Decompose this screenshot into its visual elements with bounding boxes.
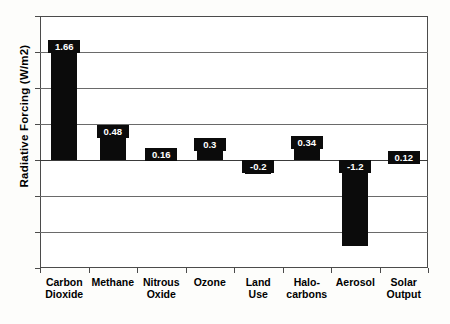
bar-value-label: 0.16 xyxy=(145,148,177,161)
bar-value-label: 0.48 xyxy=(97,125,129,138)
bar-slot: 0.12 xyxy=(380,16,429,268)
x-tick-mark xyxy=(283,268,284,273)
bar-slot: 0.16 xyxy=(137,16,186,268)
x-category-label: NitrousOxide xyxy=(137,276,186,300)
x-category-label: CarbonDioxide xyxy=(40,276,89,300)
x-category-line: Aerosol xyxy=(331,276,380,288)
x-category-line: Use xyxy=(234,288,283,300)
x-tick-mark xyxy=(234,268,235,273)
x-tick-mark xyxy=(40,268,41,273)
x-tick-mark xyxy=(380,268,381,273)
bar-slot: 0.48 xyxy=(89,16,138,268)
x-category-label: LandUse xyxy=(234,276,283,300)
bar-value-label: 0.12 xyxy=(388,151,420,164)
x-axis: CarbonDioxideMethaneNitrousOxideOzoneLan… xyxy=(40,268,428,324)
x-tick-mark xyxy=(331,268,332,273)
radiative-forcing-bar-chart: Radiative Forcing (W/m2) 21.510.50-0.5-1… xyxy=(0,0,450,324)
x-category-line: Dioxide xyxy=(40,288,89,300)
x-category-label: Ozone xyxy=(186,276,235,288)
y-axis-title: Radiative Forcing (W/m2) xyxy=(18,6,30,226)
x-category-line: Carbon xyxy=(40,276,89,288)
x-category-line: Land xyxy=(234,276,283,288)
bar-value-label: 0.34 xyxy=(291,136,323,149)
x-tick-mark xyxy=(89,268,90,273)
x-category-line: Solar xyxy=(380,276,429,288)
x-category-label: Aerosol xyxy=(331,276,380,288)
x-category-line: Methane xyxy=(89,276,138,288)
x-category-line: Output xyxy=(380,288,429,300)
x-category-line: Oxide xyxy=(137,288,186,300)
x-tick-mark xyxy=(186,268,187,273)
plot-area: 21.510.50-0.5-1-1.5 1.660.480.160.3-0.20… xyxy=(40,16,428,268)
x-category-label: Methane xyxy=(89,276,138,288)
bar-value-label: -0.2 xyxy=(242,160,274,173)
x-tick-mark xyxy=(428,268,429,273)
x-category-line: Ozone xyxy=(186,276,235,288)
bar-slot: -1.2 xyxy=(331,16,380,268)
x-category-line: Halo- xyxy=(283,276,332,288)
bar-slot: 0.34 xyxy=(283,16,332,268)
bar-slot: 0.3 xyxy=(186,16,235,268)
x-category-label: SolarOutput xyxy=(380,276,429,300)
bar xyxy=(51,40,77,160)
x-category-line: Nitrous xyxy=(137,276,186,288)
bar-value-label: -1.2 xyxy=(339,160,371,173)
bar-value-label: 0.3 xyxy=(194,138,226,151)
bar-slot: -0.2 xyxy=(234,16,283,268)
x-category-line: carbons xyxy=(283,288,332,300)
x-tick-mark xyxy=(137,268,138,273)
bar-value-label: 1.66 xyxy=(48,40,80,53)
bar-slot: 1.66 xyxy=(40,16,89,268)
x-category-label: Halo-carbons xyxy=(283,276,332,300)
